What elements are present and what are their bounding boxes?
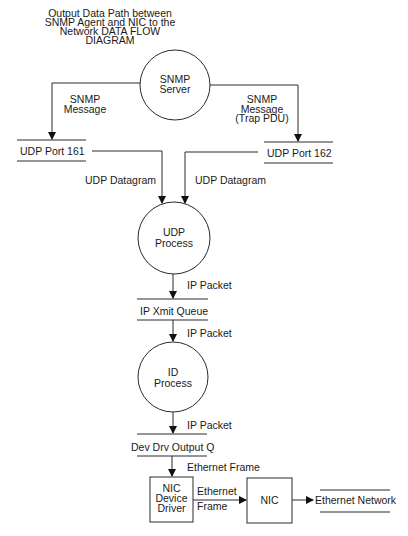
process-id: ID Process: [138, 342, 208, 412]
svg-text:Process: Process: [155, 237, 193, 249]
box-nic-device-driver: NIC Device Driver: [150, 477, 193, 522]
flow-snmp-message-right: SNMP Message (Trap PDU): [210, 85, 298, 141]
svg-text:UDP Datagram: UDP Datagram: [195, 174, 266, 186]
flow-ethernet-frame-right: Ethernet Frame: [193, 485, 246, 512]
data-store-dev-drv-output-q: Dev Drv Output Q: [131, 434, 214, 456]
svg-text:NIC: NIC: [260, 494, 279, 506]
svg-text:UDP Port 162: UDP Port 162: [267, 147, 332, 159]
process-udp: UDP Process: [138, 202, 210, 274]
svg-text:Ethernet Network: Ethernet Network: [315, 494, 397, 506]
data-store-udp-port-162: UDP Port 162: [264, 142, 333, 163]
flow-ip-packet-3: IP Packet: [173, 412, 232, 433]
svg-text:Dev Drv Output Q: Dev Drv Output Q: [131, 441, 214, 453]
flow-snmp-message-left: SNMP Message: [52, 83, 140, 139]
data-store-ip-xmit-queue: IP Xmit Queue: [137, 299, 208, 320]
svg-text:IP Packet: IP Packet: [187, 327, 232, 339]
svg-text:Process: Process: [154, 377, 192, 389]
diagram-title: Output Data Path between SNMP Agent and …: [45, 7, 176, 46]
svg-text:(Trap PDU): (Trap PDU): [235, 112, 288, 124]
svg-text:Frame: Frame: [197, 500, 227, 512]
svg-text:UDP Port 161: UDP Port 161: [20, 145, 85, 157]
data-flow-diagram: Output Data Path between SNMP Agent and …: [0, 0, 408, 536]
svg-text:UDP Datagram: UDP Datagram: [85, 174, 156, 186]
svg-text:Driver: Driver: [158, 502, 187, 514]
svg-text:Ethernet Frame: Ethernet Frame: [187, 461, 260, 473]
data-store-ethernet-network: Ethernet Network: [315, 490, 397, 512]
flow-udp-datagram-left: UDP Datagram: [85, 151, 162, 203]
svg-text:Server: Server: [160, 83, 191, 95]
data-store-udp-port-161: UDP Port 161: [17, 140, 86, 161]
flow-ip-packet-2: IP Packet: [173, 320, 232, 341]
box-nic: NIC: [247, 478, 292, 523]
svg-text:Ethernet: Ethernet: [197, 485, 237, 497]
svg-text:DIAGRAM: DIAGRAM: [85, 34, 134, 46]
svg-text:IP Xmit Queue: IP Xmit Queue: [140, 305, 208, 317]
svg-text:IP Packet: IP Packet: [187, 279, 232, 291]
svg-text:IP Packet: IP Packet: [187, 419, 232, 431]
flow-ethernet-frame-down: Ethernet Frame: [172, 456, 260, 476]
svg-text:Message: Message: [64, 103, 107, 115]
process-snmp-server: SNMP Server: [140, 50, 210, 120]
flow-udp-datagram-right: UDP Datagram: [185, 152, 266, 203]
flow-ip-packet-1: IP Packet: [173, 274, 232, 298]
